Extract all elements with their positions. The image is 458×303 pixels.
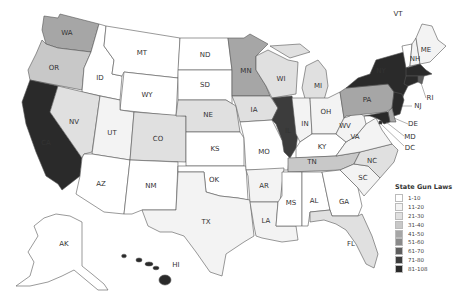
state-label-AZ: AZ xyxy=(96,180,106,188)
state-label-ND: ND xyxy=(200,51,211,59)
state-label-WA: WA xyxy=(61,29,73,37)
state-label-PA: PA xyxy=(363,96,372,104)
state-label-GA: GA xyxy=(339,198,349,206)
state-label-NV: NV xyxy=(69,118,79,126)
legend-label: 71-80 xyxy=(408,257,424,263)
state-label-AK: AK xyxy=(59,240,69,248)
state-label-NY: NY xyxy=(376,67,386,75)
state-label-DE: DE xyxy=(408,120,418,128)
legend-label: 21-30 xyxy=(408,213,424,219)
state-label-MS: MS xyxy=(286,199,297,207)
legend-swatch xyxy=(395,265,403,273)
state-label-FL: FL xyxy=(347,240,355,248)
state-label-MT: MT xyxy=(137,49,148,57)
legend-label: 11-20 xyxy=(408,204,424,210)
state-label-NE: NE xyxy=(203,111,213,119)
state-label-OH: OH xyxy=(321,108,332,116)
state-label-NJ: NJ xyxy=(414,102,421,110)
legend-item: 81-108 xyxy=(395,264,458,273)
legend-item: 71-80 xyxy=(395,256,458,265)
state-label-LA: LA xyxy=(262,217,271,225)
state-label-IL: IL xyxy=(285,127,291,135)
legend-item: 21-30 xyxy=(395,212,458,221)
legend-swatch xyxy=(395,238,403,246)
state-label-MN: MN xyxy=(240,67,251,75)
legend-label: 41-50 xyxy=(408,231,424,237)
legend-item: 61-70 xyxy=(395,247,458,256)
state-label-ID: ID xyxy=(96,74,103,82)
state-ME[interactable] xyxy=(416,24,446,64)
state-label-AR: AR xyxy=(259,182,269,190)
legend-title: State Gun Laws xyxy=(395,183,458,191)
state-label-SC: SC xyxy=(358,174,367,182)
legend: State Gun Laws 1-1011-2021-3031-4041-505… xyxy=(395,183,458,273)
state-label-MO: MO xyxy=(258,148,270,156)
state-FL[interactable] xyxy=(310,210,378,268)
state-label-NC: NC xyxy=(367,157,377,165)
legend-item: 31-40 xyxy=(395,220,458,229)
state-label-AL: AL xyxy=(310,197,319,205)
state-label-NH: NH xyxy=(410,55,421,63)
state-label-CA: CA xyxy=(41,139,51,147)
legend-item: 11-20 xyxy=(395,203,458,212)
state-label-NM: NM xyxy=(145,182,156,190)
legend-swatch xyxy=(395,212,403,220)
legend-label: 81-108 xyxy=(408,266,427,272)
state-label-HI: HI xyxy=(172,261,179,269)
legend-swatch xyxy=(395,256,403,264)
state-label-KY: KY xyxy=(318,143,327,151)
state-label-DC: DC xyxy=(405,144,415,152)
state-DC[interactable] xyxy=(379,121,382,124)
state-label-IA: IA xyxy=(251,106,258,114)
state-label-IN: IN xyxy=(301,120,308,128)
state-label-OK: OK xyxy=(209,176,220,184)
legend-swatch xyxy=(395,247,403,255)
state-AK[interactable] xyxy=(16,214,108,290)
state-label-WY: WY xyxy=(141,91,153,99)
legend-swatch xyxy=(395,194,403,202)
state-NJ[interactable] xyxy=(392,92,404,116)
state-label-RI: RI xyxy=(427,94,434,102)
legend-swatch xyxy=(395,203,403,211)
state-label-CO: CO xyxy=(153,135,164,143)
state-label-ME: ME xyxy=(421,46,431,54)
legend-item: 51-60 xyxy=(395,238,458,247)
state-label-MI: MI xyxy=(314,82,322,90)
legend-label: 1-10 xyxy=(408,195,420,201)
state-label-VA: VA xyxy=(350,133,359,141)
legend-item: 41-50 xyxy=(395,229,458,238)
state-label-VT: VT xyxy=(393,10,403,18)
state-label-OR: OR xyxy=(49,64,60,72)
state-label-KS: KS xyxy=(210,145,220,153)
state-label-WI: WI xyxy=(277,75,286,83)
legend-label: 51-60 xyxy=(408,239,424,245)
state-label-WV: WV xyxy=(339,122,351,130)
state-label-SD: SD xyxy=(200,81,210,89)
legend-item: 1-10 xyxy=(395,194,458,203)
legend-swatch xyxy=(395,221,403,229)
state-label-UT: UT xyxy=(107,129,117,137)
legend-swatch xyxy=(395,230,403,238)
state-label-MD: MD xyxy=(404,133,415,141)
us-state-gun-laws-map: WAORCAIDNVMTWYUTAZCONMNDSDNEKSOKTXMNIAMO… xyxy=(0,0,458,303)
legend-label: 61-70 xyxy=(408,248,424,254)
legend-label: 31-40 xyxy=(408,222,424,228)
state-CT[interactable] xyxy=(404,76,418,86)
state-label-TX: TX xyxy=(200,218,210,226)
state-label-TN: TN xyxy=(306,158,317,166)
state-HI[interactable] xyxy=(122,254,171,285)
